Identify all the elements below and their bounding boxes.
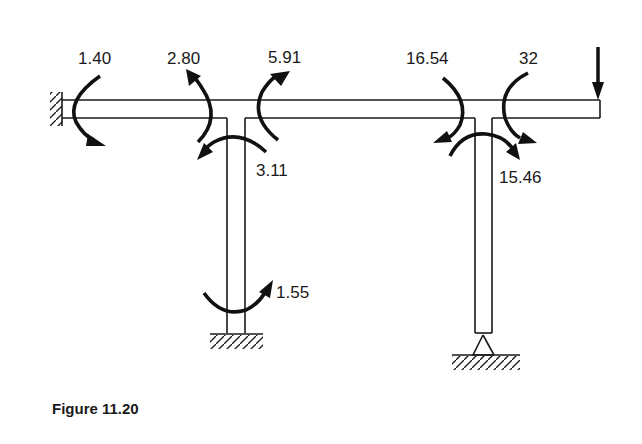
moment-label: 2.80 — [167, 49, 200, 68]
point-load-arrow — [592, 47, 604, 100]
moment-label: 1.40 — [78, 49, 111, 68]
moment-arrow-icon — [504, 73, 537, 144]
fixed-wall-support — [50, 92, 62, 126]
fixed-ground-support — [210, 334, 263, 349]
moment-label: 3.11 — [256, 161, 288, 180]
moment-label: 15.46 — [499, 168, 542, 187]
frame-diagram: 1.40 2.80 5.91 3.11 1.55 16.54 32 15.46 … — [0, 0, 642, 444]
moment-arrow-icon — [197, 137, 266, 160]
moment-arrow-icon — [74, 76, 106, 146]
moment-arrow-icon — [204, 280, 273, 312]
moment-arrow-icon — [450, 134, 520, 160]
moment-label: 1.55 — [276, 283, 309, 302]
moment-arrow-icon — [433, 78, 463, 143]
frame-members — [62, 100, 600, 333]
moment-arrow-icon — [258, 71, 290, 140]
moment-label: 5.91 — [268, 48, 301, 67]
figure-caption: Figure 11.20 — [52, 400, 139, 417]
moment-label: 16.54 — [406, 49, 449, 68]
moment-arrow-icon — [186, 69, 211, 142]
moment-label: 32 — [519, 49, 538, 68]
pin-support — [452, 335, 520, 370]
